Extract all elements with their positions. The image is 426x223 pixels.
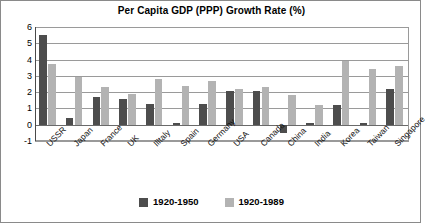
y-tick-label: 4 bbox=[6, 56, 32, 65]
bar-uk-1920-1989 bbox=[128, 94, 136, 125]
bar-singapore-1920-1950 bbox=[386, 89, 394, 125]
bar-group bbox=[249, 27, 276, 141]
bar-france-1920-1989 bbox=[101, 87, 109, 124]
legend-label: 1920-1989 bbox=[239, 197, 284, 207]
bar-canada-1920-1950 bbox=[253, 91, 261, 125]
y-tick-label: 5 bbox=[6, 39, 32, 48]
bar-group bbox=[302, 27, 329, 141]
y-axis-line bbox=[35, 27, 36, 141]
bar-france-1920-1950 bbox=[93, 97, 101, 125]
bar-group bbox=[35, 27, 62, 141]
y-axis-tick-labels: 6543210-1 bbox=[1, 27, 32, 141]
bar-india-1920-1989 bbox=[315, 105, 323, 125]
bar-group bbox=[88, 27, 115, 141]
bar-germany-1920-1989 bbox=[208, 81, 216, 125]
light-swatch-icon bbox=[225, 198, 234, 207]
legend-entry: 1920-1989 bbox=[225, 197, 284, 207]
chart-legend: 1920-19501920-1989 bbox=[1, 197, 422, 207]
bar-group bbox=[195, 27, 222, 141]
legend-entry: 1920-1950 bbox=[139, 197, 198, 207]
bar-korea-1920-1950 bbox=[333, 105, 341, 125]
bar-illtaly-1920-1989 bbox=[155, 79, 163, 125]
y-tick-label: 3 bbox=[6, 72, 32, 81]
bar-group bbox=[329, 27, 356, 141]
bar-ussr-1920-1989 bbox=[48, 64, 56, 124]
y-tick-label: -1 bbox=[6, 137, 32, 146]
y-tick-label: 2 bbox=[6, 88, 32, 97]
y-tick-label: 6 bbox=[6, 23, 32, 32]
bar-korea-1920-1989 bbox=[342, 61, 350, 125]
bar-group bbox=[356, 27, 383, 141]
bar-japan-1920-1950 bbox=[66, 118, 74, 125]
bar-taiwan-1920-1989 bbox=[369, 69, 377, 124]
x-axis-tick-labels: USSRJapanFranceUKIlltalySpainGermanyUSAC… bbox=[35, 142, 409, 190]
bar-usa-1920-1989 bbox=[235, 89, 243, 125]
bar-illtaly-1920-1950 bbox=[146, 104, 154, 125]
bar-spain-1920-1989 bbox=[182, 86, 190, 125]
bar-group bbox=[142, 27, 169, 141]
bar-japan-1920-1989 bbox=[75, 77, 83, 124]
legend-label: 1920-1950 bbox=[153, 197, 198, 207]
bar-group bbox=[62, 27, 89, 141]
bar-singapore-1920-1989 bbox=[395, 66, 403, 125]
bar-taiwan-1920-1950 bbox=[360, 123, 368, 125]
dark-swatch-icon bbox=[139, 198, 148, 207]
bar-canada-1920-1989 bbox=[262, 87, 270, 124]
bar-china-1920-1989 bbox=[288, 95, 296, 124]
bar-group bbox=[169, 27, 196, 141]
bar-uk-1920-1950 bbox=[119, 99, 127, 125]
y-tick-label: 0 bbox=[6, 121, 32, 130]
bar-india-1920-1950 bbox=[306, 123, 314, 125]
bar-spain-1920-1950 bbox=[173, 123, 181, 125]
bar-ussr-1920-1950 bbox=[39, 35, 47, 125]
bar-germany-1920-1950 bbox=[199, 104, 207, 125]
y-tick-label: 1 bbox=[6, 104, 32, 113]
chart-title: Per Capita GDP (PPP) Growth Rate (%) bbox=[1, 5, 422, 16]
